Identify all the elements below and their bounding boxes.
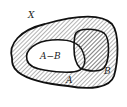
venn-diagram: X A−B A B <box>0 0 127 107</box>
label-a-minus-b: A−B <box>39 51 61 61</box>
label-set-a: A <box>65 75 73 85</box>
label-set-b: B <box>103 66 111 76</box>
label-universe-x: X <box>27 10 35 20</box>
set-b-region <box>74 29 109 71</box>
